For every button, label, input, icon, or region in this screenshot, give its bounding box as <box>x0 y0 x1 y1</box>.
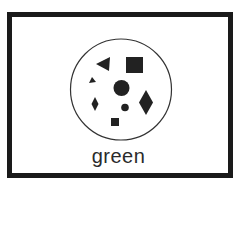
small-circle-icon <box>121 104 129 112</box>
small-square-icon <box>111 118 119 126</box>
large-triangle-icon <box>96 57 110 71</box>
small-diamond-icon <box>92 97 99 111</box>
large-diamond-icon <box>139 90 153 115</box>
small-triangle-icon <box>89 77 96 83</box>
color-word-label: green <box>0 145 237 168</box>
large-circle-icon <box>114 80 130 96</box>
large-square-icon <box>126 57 143 73</box>
